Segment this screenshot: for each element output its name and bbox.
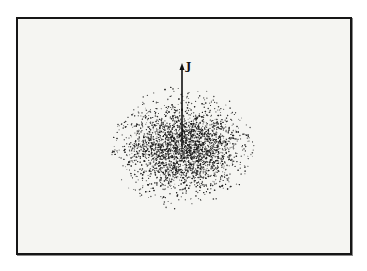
arrow-head-icon [180,63,185,70]
electron-cloud-diagram [0,0,367,271]
vector-label-j: J [186,61,191,72]
